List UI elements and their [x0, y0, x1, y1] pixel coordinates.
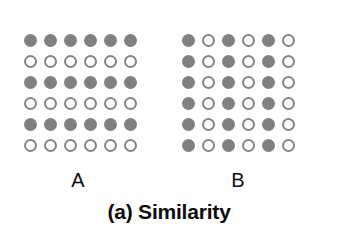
open-dot: [282, 34, 295, 47]
open-dot: [242, 34, 255, 47]
open-dot: [202, 97, 215, 110]
filled-dot: [104, 34, 117, 47]
open-dot: [44, 55, 57, 68]
filled-dot: [182, 34, 195, 47]
dot-grid-panel-a: [20, 30, 140, 156]
filled-dot: [124, 34, 137, 47]
panel-label-a: A: [58, 170, 98, 190]
open-dot: [282, 118, 295, 131]
open-dot: [202, 55, 215, 68]
open-dot: [242, 118, 255, 131]
open-dot: [84, 97, 97, 110]
open-dot: [124, 97, 137, 110]
figure-caption: (a) Similarity: [0, 201, 338, 222]
open-dot: [202, 139, 215, 152]
open-dot: [24, 97, 37, 110]
filled-dot: [104, 118, 117, 131]
filled-dot: [222, 97, 235, 110]
filled-dot: [222, 139, 235, 152]
open-dot: [282, 139, 295, 152]
similarity-figure: A B (a) Similarity: [0, 0, 338, 230]
open-dot: [44, 139, 57, 152]
filled-dot: [262, 34, 275, 47]
open-dot: [84, 55, 97, 68]
filled-dot: [24, 34, 37, 47]
open-dot: [64, 55, 77, 68]
filled-dot: [182, 139, 195, 152]
open-dot: [104, 139, 117, 152]
filled-dot: [24, 118, 37, 131]
open-dot: [64, 139, 77, 152]
open-dot: [202, 76, 215, 89]
dot-grid-panel-b: [178, 30, 298, 156]
open-dot: [282, 55, 295, 68]
open-dot: [104, 97, 117, 110]
filled-dot: [262, 139, 275, 152]
open-dot: [124, 139, 137, 152]
open-dot: [124, 55, 137, 68]
open-dot: [64, 97, 77, 110]
open-dot: [282, 97, 295, 110]
filled-dot: [124, 76, 137, 89]
filled-dot: [64, 118, 77, 131]
open-dot: [84, 139, 97, 152]
filled-dot: [262, 118, 275, 131]
filled-dot: [44, 34, 57, 47]
open-dot: [242, 76, 255, 89]
open-dot: [242, 55, 255, 68]
filled-dot: [182, 118, 195, 131]
open-dot: [202, 34, 215, 47]
filled-dot: [64, 34, 77, 47]
filled-dot: [182, 55, 195, 68]
filled-dot: [262, 97, 275, 110]
filled-dot: [84, 76, 97, 89]
open-dot: [104, 55, 117, 68]
filled-dot: [262, 76, 275, 89]
filled-dot: [84, 34, 97, 47]
filled-dot: [222, 34, 235, 47]
filled-dot: [84, 118, 97, 131]
open-dot: [24, 55, 37, 68]
open-dot: [242, 97, 255, 110]
open-dot: [24, 139, 37, 152]
filled-dot: [182, 76, 195, 89]
filled-dot: [182, 97, 195, 110]
filled-dot: [222, 76, 235, 89]
filled-dot: [124, 118, 137, 131]
filled-dot: [222, 55, 235, 68]
filled-dot: [44, 76, 57, 89]
filled-dot: [44, 118, 57, 131]
filled-dot: [262, 55, 275, 68]
filled-dot: [24, 76, 37, 89]
filled-dot: [222, 118, 235, 131]
open-dot: [44, 97, 57, 110]
filled-dot: [64, 76, 77, 89]
filled-dot: [104, 76, 117, 89]
open-dot: [282, 76, 295, 89]
open-dot: [202, 118, 215, 131]
open-dot: [242, 139, 255, 152]
panel-label-b: B: [218, 170, 258, 190]
